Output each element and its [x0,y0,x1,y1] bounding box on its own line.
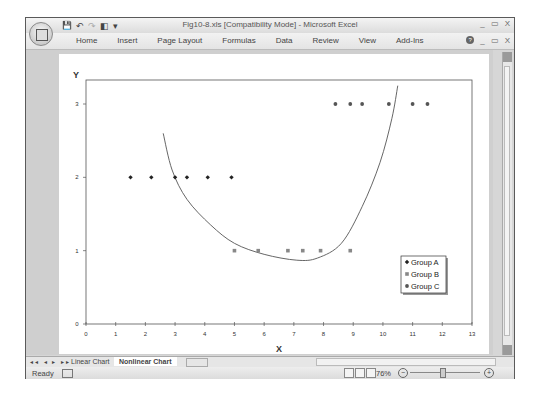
tab-add-ins[interactable]: Add-Ins [396,36,424,45]
y-tick-label: 1 [75,248,79,254]
doc-controls: ? _ ▭ X [466,36,510,45]
group-b-point[interactable] [301,249,305,253]
scroll-up-arrow-icon[interactable] [503,52,512,62]
y-axis-title: Y [73,70,79,80]
status-bar: Ready 76% − + [26,367,514,379]
view-buttons [344,368,376,378]
page-layout-view-icon[interactable] [355,368,365,378]
office-button[interactable] [29,22,53,46]
normal-view-icon[interactable] [344,368,354,378]
ribbon-tabs: Home Insert Page Layout Formulas Data Re… [76,36,444,45]
group-c-point[interactable] [334,102,338,106]
excel-window: 💾 ↶ ↷ ◧ ▾ Fig10-8.xls [Compatibility Mod… [25,17,515,379]
x-tick-label: 11 [409,331,416,337]
zoom-out-button[interactable]: − [398,368,408,378]
maximize-button[interactable]: ▭ [491,19,499,28]
scatter-chart[interactable]: 0123456789101112130123XYGroup AGroup BGr… [59,54,489,354]
x-tick-label: 6 [262,331,266,337]
window-controls: _ ▭ X [480,19,510,28]
legend-entry: Group A [411,258,439,267]
legend-marker-icon [405,272,409,276]
office-logo-icon [36,29,48,41]
x-tick-label: 8 [322,331,326,337]
x-tick-label: 3 [173,331,177,337]
tab-page-layout[interactable]: Page Layout [157,36,202,45]
title-bar: 💾 ↶ ↷ ◧ ▾ Fig10-8.xls [Compatibility Mod… [26,18,514,33]
x-tick-label: 1 [114,331,118,337]
group-c-point[interactable] [411,102,415,106]
sheet-tab-nonlinear-chart[interactable]: Nonlinear Chart [114,357,177,366]
sheet-tab-bar: ◂◂ ◂ ▸ ▸▸ Linear Chart Nonlinear Chart [26,356,514,367]
doc-restore-button[interactable]: ▭ [491,36,499,45]
zoom-level[interactable]: 76% [376,369,391,378]
help-icon[interactable]: ? [466,36,474,44]
group-b-point[interactable] [256,249,260,253]
y-tick-label: 3 [75,101,79,107]
scroll-thumb[interactable] [504,66,510,336]
tab-formulas[interactable]: Formulas [222,36,255,45]
tab-data[interactable]: Data [276,36,293,45]
x-tick-label: 0 [84,331,88,337]
group-c-point[interactable] [426,102,430,106]
zoom-in-button[interactable]: + [484,368,494,378]
x-tick-label: 12 [439,331,446,337]
x-tick-label: 2 [144,331,148,337]
x-tick-label: 9 [352,331,356,337]
insert-sheet-icon[interactable] [186,358,208,367]
group-b-point[interactable] [319,249,323,253]
sheet-nav-arrows[interactable]: ◂◂ ◂ ▸ ▸▸ [30,358,71,365]
y-tick-label: 0 [75,321,79,327]
x-axis-title: X [276,344,282,354]
zoom-slider-thumb[interactable] [440,368,446,378]
scroll-down-arrow-icon[interactable] [503,345,512,355]
close-button[interactable]: X [505,19,510,28]
group-c-point[interactable] [387,102,391,106]
x-tick-label: 7 [292,331,296,337]
x-tick-label: 4 [203,331,207,337]
group-b-point[interactable] [233,249,237,253]
horizontal-scrollbar[interactable] [316,358,496,366]
tab-insert[interactable]: Insert [117,36,137,45]
tab-view[interactable]: View [359,36,376,45]
ribbon: Home Insert Page Layout Formulas Data Re… [26,33,514,50]
doc-minimize-button[interactable]: _ [480,36,484,45]
status-text: Ready [32,369,54,378]
sheet-tab-linear-chart[interactable]: Linear Chart [66,357,116,366]
window-title: Fig10-8.xls [Compatibility Mode] - Micro… [26,20,514,29]
group-c-point[interactable] [360,102,364,106]
legend-entry: Group B [411,270,439,279]
chart-area[interactable]: 0123456789101112130123XYGroup AGroup BGr… [59,54,489,354]
group-c-point[interactable] [348,102,352,106]
x-tick-label: 10 [380,331,387,337]
tab-home[interactable]: Home [76,36,97,45]
vertical-scrollbar[interactable] [502,52,512,355]
x-tick-label: 13 [469,331,476,337]
y-tick-label: 2 [75,174,79,180]
legend-marker-icon [405,284,409,288]
x-tick-label: 5 [233,331,237,337]
chart-sheet-area: 0123456789101112130123XYGroup AGroup BGr… [26,50,493,355]
group-b-point[interactable] [286,249,290,253]
minimize-button[interactable]: _ [480,19,484,28]
group-b-point[interactable] [348,249,352,253]
macro-record-icon[interactable] [62,369,73,378]
doc-close-button[interactable]: X [505,36,510,45]
tab-review[interactable]: Review [313,36,339,45]
legend-entry: Group C [411,282,440,291]
page-break-view-icon[interactable] [366,368,376,378]
